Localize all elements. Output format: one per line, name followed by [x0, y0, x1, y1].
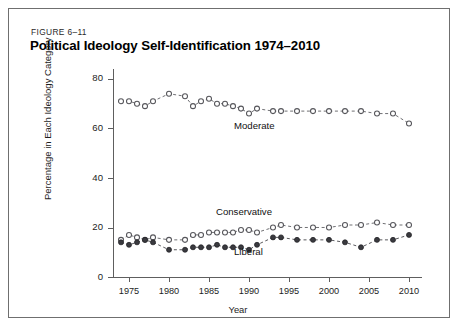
data-point: [167, 247, 172, 252]
data-point: [279, 235, 284, 240]
data-point: [391, 223, 396, 228]
data-point: [191, 232, 196, 237]
data-point: [119, 240, 124, 245]
x-axis-tick-label: 1980: [149, 286, 189, 296]
data-point: [231, 104, 236, 109]
data-point: [295, 109, 300, 114]
data-point: [343, 223, 348, 228]
data-point: [167, 237, 172, 242]
data-point: [271, 235, 276, 240]
data-point: [359, 109, 364, 114]
series-liberal: [119, 232, 412, 252]
data-point: [239, 227, 244, 232]
series-line: [121, 223, 409, 240]
series-conservative: [119, 220, 412, 242]
data-point: [359, 223, 364, 228]
data-point: [127, 232, 132, 237]
x-axis-tick: [129, 277, 130, 282]
data-point: [311, 109, 316, 114]
data-point: [271, 225, 276, 230]
data-point: [375, 237, 380, 242]
data-point: [119, 99, 124, 104]
data-point: [135, 101, 140, 106]
data-point: [295, 237, 300, 242]
data-point: [375, 111, 380, 116]
data-point: [407, 223, 412, 228]
x-axis-tick: [329, 277, 330, 282]
series-label-liberal: Liberal: [234, 246, 263, 257]
data-point: [271, 109, 276, 114]
series-layer: [113, 69, 421, 277]
data-point: [311, 237, 316, 242]
data-point: [327, 237, 332, 242]
y-axis-tick-label: 0: [73, 271, 103, 282]
y-axis-title: Percentage in Each Ideology Category: [42, 14, 54, 224]
data-point: [127, 99, 132, 104]
data-point: [191, 104, 196, 109]
figure-number-label: FIGURE 6–11: [31, 27, 87, 37]
data-point: [255, 230, 260, 235]
data-point: [407, 121, 412, 126]
x-axis-tick: [369, 277, 370, 282]
x-axis-tick-label: 1975: [109, 286, 149, 296]
data-point: [247, 227, 252, 232]
data-point: [231, 230, 236, 235]
y-axis-tick-label: 40: [73, 172, 103, 183]
x-axis-line: [113, 277, 422, 278]
x-axis-tick: [169, 277, 170, 282]
x-axis-tick-label: 2010: [389, 286, 429, 296]
figure-frame: FIGURE 6–11 Political Ideology Self-Iden…: [8, 8, 450, 318]
x-axis-tick-label: 1995: [269, 286, 309, 296]
data-point: [183, 247, 188, 252]
data-point: [279, 223, 284, 228]
data-point: [135, 235, 140, 240]
x-axis-tick: [209, 277, 210, 282]
data-point: [199, 232, 204, 237]
y-axis-tick: [108, 277, 114, 278]
x-axis-tick-label: 1990: [229, 286, 269, 296]
data-point: [375, 220, 380, 225]
data-point: [255, 106, 260, 111]
data-point: [127, 242, 132, 247]
data-point: [135, 240, 140, 245]
data-point: [151, 99, 156, 104]
data-point: [391, 111, 396, 116]
data-point: [199, 99, 204, 104]
plot-area: Moderate Conservative Liberal: [113, 69, 421, 277]
data-point: [223, 230, 228, 235]
data-point: [207, 96, 212, 101]
data-point: [223, 245, 228, 250]
data-point: [239, 106, 244, 111]
x-axis-tick: [289, 277, 290, 282]
data-point: [343, 240, 348, 245]
data-point: [183, 94, 188, 99]
data-point: [215, 242, 220, 247]
data-point: [295, 225, 300, 230]
data-point: [327, 225, 332, 230]
data-point: [207, 245, 212, 250]
data-point: [223, 101, 228, 106]
x-axis-tick-label: 2000: [309, 286, 349, 296]
data-point: [215, 230, 220, 235]
data-point: [143, 104, 148, 109]
data-point: [407, 232, 412, 237]
data-point: [151, 235, 156, 240]
data-point: [343, 109, 348, 114]
series-line: [121, 235, 409, 250]
data-point: [151, 240, 156, 245]
y-axis-tick-label: 20: [73, 221, 103, 232]
data-point: [199, 245, 204, 250]
series-label-moderate: Moderate: [234, 120, 275, 131]
data-point: [359, 245, 364, 250]
x-axis-tick: [409, 277, 410, 282]
y-axis-tick-label: 60: [73, 122, 103, 133]
data-point: [207, 230, 212, 235]
figure-title: Political Ideology Self-Identification 1…: [30, 38, 320, 53]
data-point: [167, 91, 172, 96]
x-axis-tick-label: 2005: [349, 286, 389, 296]
data-point: [183, 237, 188, 242]
x-axis-tick: [249, 277, 250, 282]
x-axis-title: Year: [9, 304, 458, 315]
series-label-conservative: Conservative: [216, 206, 272, 217]
data-point: [279, 109, 284, 114]
